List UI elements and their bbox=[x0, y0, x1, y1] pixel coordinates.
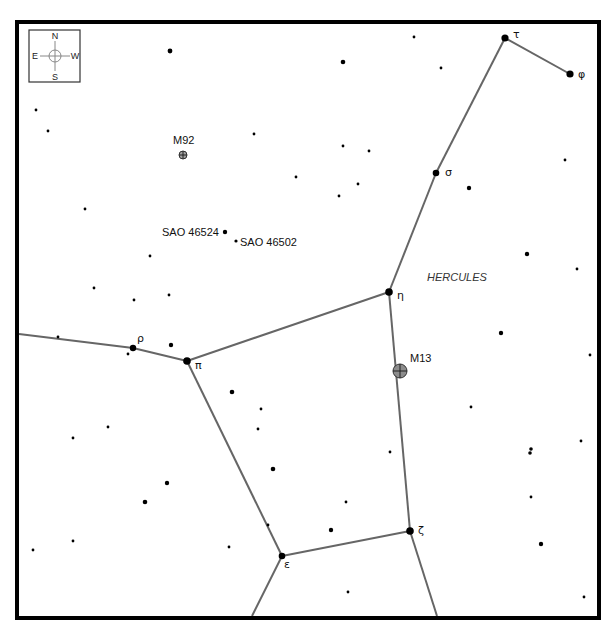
field-star bbox=[329, 528, 333, 532]
field-star bbox=[389, 451, 392, 454]
field-star bbox=[230, 390, 235, 395]
field-star bbox=[47, 130, 50, 133]
field-star bbox=[576, 268, 579, 271]
star-label-phi: φ bbox=[578, 68, 585, 81]
field-star bbox=[345, 501, 348, 504]
compass-north-label: N bbox=[52, 31, 59, 41]
star-label-rho: ρ bbox=[137, 332, 144, 345]
field-star bbox=[338, 195, 341, 198]
field-star bbox=[57, 336, 60, 339]
catalog-star[interactable]: SAO 46502 bbox=[234, 236, 296, 248]
field-star bbox=[93, 287, 96, 290]
compass-rose: N S E W bbox=[29, 30, 80, 82]
field-star bbox=[72, 437, 75, 440]
star-label-zeta: ζ bbox=[418, 524, 424, 537]
field-star bbox=[168, 49, 173, 54]
star-dot-icon bbox=[501, 34, 508, 41]
dso-label: M92 bbox=[173, 134, 194, 146]
field-star bbox=[529, 447, 533, 451]
star-dot-icon bbox=[385, 288, 393, 296]
star-dot-icon bbox=[183, 357, 191, 365]
field-star bbox=[35, 109, 38, 112]
star-dot-icon bbox=[406, 527, 414, 535]
field-star bbox=[143, 500, 148, 505]
field-star bbox=[260, 408, 263, 411]
star-label-sigma: σ bbox=[445, 166, 452, 179]
field-star bbox=[539, 542, 543, 546]
field-star bbox=[107, 426, 110, 429]
field-star bbox=[295, 176, 298, 179]
catalog-star-label: SAO 46502 bbox=[240, 236, 297, 248]
field-star bbox=[133, 299, 136, 302]
field-star bbox=[357, 183, 360, 186]
field-star bbox=[271, 467, 276, 472]
field-star bbox=[72, 540, 75, 543]
field-star bbox=[528, 451, 532, 455]
catalog-star[interactable]: SAO 46524 bbox=[162, 226, 227, 238]
constellation-name-label: HERCULES bbox=[427, 271, 488, 283]
star-label-tau: τ bbox=[513, 28, 520, 41]
star-dot-icon bbox=[130, 345, 136, 351]
field-star bbox=[467, 186, 471, 190]
star-dot-icon bbox=[433, 170, 440, 177]
star-label-pi: π bbox=[195, 359, 202, 372]
field-star bbox=[530, 496, 533, 499]
field-star bbox=[127, 353, 130, 356]
field-star bbox=[32, 549, 35, 552]
field-star bbox=[564, 159, 567, 162]
star-dot-icon bbox=[566, 70, 573, 77]
star-dot-icon bbox=[234, 239, 237, 242]
field-star bbox=[580, 440, 583, 443]
field-star bbox=[165, 481, 169, 485]
compass-south-label: S bbox=[52, 72, 58, 82]
field-star bbox=[440, 67, 443, 70]
field-star bbox=[499, 331, 503, 335]
field-star bbox=[267, 524, 270, 527]
compass-east-label: E bbox=[32, 51, 38, 61]
field-star bbox=[84, 208, 87, 211]
catalog-star-label: SAO 46524 bbox=[162, 226, 219, 238]
field-star bbox=[589, 354, 592, 357]
field-star bbox=[169, 343, 173, 347]
star-dot-icon bbox=[223, 230, 227, 234]
field-star bbox=[168, 294, 171, 297]
field-star bbox=[253, 133, 256, 136]
star-label-epsilon: ε bbox=[284, 558, 290, 571]
dso-label: M13 bbox=[410, 352, 431, 364]
field-star bbox=[368, 150, 371, 153]
field-star bbox=[149, 255, 152, 258]
field-star bbox=[342, 145, 345, 148]
background bbox=[0, 0, 612, 632]
field-star bbox=[341, 60, 346, 65]
field-star bbox=[470, 406, 473, 409]
star-label-eta: η bbox=[397, 289, 404, 302]
field-star bbox=[583, 596, 586, 599]
field-star bbox=[228, 546, 231, 549]
field-star bbox=[525, 252, 529, 256]
field-star bbox=[347, 591, 350, 594]
field-star bbox=[413, 36, 416, 39]
field-star bbox=[257, 428, 260, 431]
compass-west-label: W bbox=[71, 51, 80, 61]
star-chart: M92M13 τφσηπρεζ SAO 46524SAO 46502 HERCU… bbox=[0, 0, 612, 632]
